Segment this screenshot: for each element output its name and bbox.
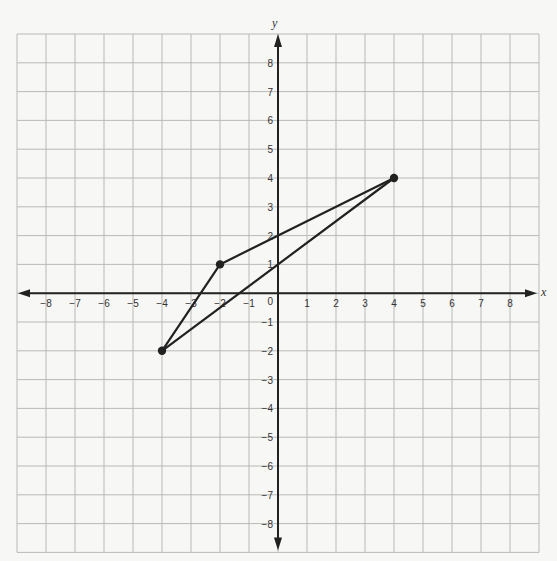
x-axis-label: x xyxy=(540,285,547,299)
x-tick-label: 4 xyxy=(391,298,397,309)
y-tick-label: −5 xyxy=(262,432,274,443)
y-tick-label: 6 xyxy=(267,115,273,126)
vertex-point xyxy=(158,347,166,355)
coordinate-plane: −8−7−6−5−4−3−2−112345678−8−7−6−5−4−3−2−1… xyxy=(0,0,557,561)
x-tick-label: −4 xyxy=(156,298,168,309)
x-axis-left-arrow-icon xyxy=(18,289,30,297)
x-tick-label: −8 xyxy=(40,298,52,309)
y-axis-label: y xyxy=(271,16,278,30)
x-tick-label: 3 xyxy=(362,298,368,309)
x-tick-label: −7 xyxy=(69,298,81,309)
y-axis-up-arrow-icon xyxy=(274,34,282,47)
y-tick-label: −8 xyxy=(262,519,274,530)
x-axis-right-arrow-icon xyxy=(525,289,537,297)
x-tick-label: 6 xyxy=(449,298,455,309)
x-tick-label: 1 xyxy=(304,298,310,309)
x-tick-label: −1 xyxy=(243,298,255,309)
origin-label: 0 xyxy=(267,296,273,307)
y-axis-down-arrow-icon xyxy=(274,537,282,550)
y-tick-label: −6 xyxy=(262,461,274,472)
x-tick-label: 8 xyxy=(507,298,513,309)
y-tick-label: −7 xyxy=(262,490,274,501)
x-tick-label: 2 xyxy=(333,298,339,309)
y-tick-label: 4 xyxy=(267,173,273,184)
y-tick-label: −4 xyxy=(262,403,274,414)
x-tick-label: −6 xyxy=(98,298,110,309)
y-tick-label: 8 xyxy=(267,58,273,69)
y-tick-label: 5 xyxy=(267,144,273,155)
y-tick-label: −2 xyxy=(262,346,274,357)
y-tick-label: 3 xyxy=(267,202,273,213)
x-tick-label: −5 xyxy=(127,298,139,309)
y-tick-label: 7 xyxy=(267,87,273,98)
x-tick-label: 7 xyxy=(478,298,484,309)
vertex-point xyxy=(216,260,224,268)
y-tick-label: −1 xyxy=(262,317,274,328)
vertex-point xyxy=(390,174,398,182)
axes xyxy=(18,34,537,550)
y-tick-label: −3 xyxy=(262,375,274,386)
x-tick-label: 5 xyxy=(420,298,426,309)
